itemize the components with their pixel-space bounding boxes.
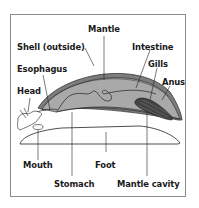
label-shell: Shell (outside) bbox=[17, 43, 85, 51]
label-stomach: Stomach bbox=[54, 180, 94, 188]
label-mouth: Mouth bbox=[23, 161, 53, 169]
foot-shape bbox=[20, 126, 180, 144]
label-head: Head bbox=[17, 87, 41, 95]
label-mantle: Mantle bbox=[88, 25, 120, 33]
label-foot: Foot bbox=[95, 161, 116, 169]
label-anus: Anus bbox=[162, 78, 185, 86]
label-intestine: Intestine bbox=[132, 43, 173, 51]
mouth-shape bbox=[33, 125, 43, 130]
label-esophagus: Esophagus bbox=[17, 65, 67, 73]
label-mantle-cavity: Mantle cavity bbox=[117, 180, 180, 188]
label-gills: Gills bbox=[148, 60, 168, 68]
